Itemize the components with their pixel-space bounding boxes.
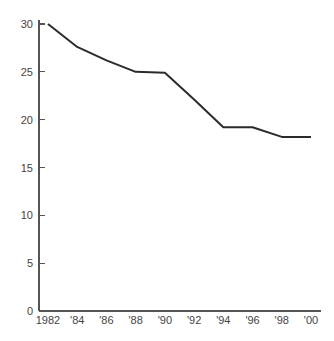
x-axis-tick-label: 1982 xyxy=(36,314,60,326)
y-axis-tick-label: 5 xyxy=(27,257,33,269)
chart-container: 051015202530 1982'84'86'88'90'92'94'96'9… xyxy=(0,0,334,341)
y-axis-tick-label: 15 xyxy=(21,162,33,174)
data-series-group xyxy=(48,24,311,137)
x-axis-tick-label: '84 xyxy=(70,314,84,326)
line-chart: 051015202530 1982'84'86'88'90'92'94'96'9… xyxy=(0,0,334,341)
x-axis-tick-label: '94 xyxy=(216,314,230,326)
x-axis-tick-label: '88 xyxy=(128,314,142,326)
y-axis-tick-label: 10 xyxy=(21,209,33,221)
x-axis-tick-labels: 1982'84'86'88'90'92'94'96'98'00 xyxy=(36,314,318,326)
x-axis-tick-label: '92 xyxy=(187,314,201,326)
y-axis-tick-label: 0 xyxy=(27,305,33,317)
y-axis-ticks xyxy=(39,24,45,263)
x-axis-tick-label: '86 xyxy=(99,314,113,326)
x-axis-tick-label: '90 xyxy=(158,314,172,326)
y-axis-tick-label: 30 xyxy=(21,18,33,30)
x-axis: 1982'84'86'88'90'92'94'96'98'00 xyxy=(36,311,321,326)
y-axis-tick-label: 20 xyxy=(21,114,33,126)
x-axis-tick-label: '98 xyxy=(275,314,289,326)
y-axis-tick-labels: 051015202530 xyxy=(21,18,33,317)
data-line-series-1 xyxy=(48,24,311,137)
x-axis-tick-label: '96 xyxy=(245,314,259,326)
y-axis: 051015202530 xyxy=(21,18,45,317)
y-axis-tick-label: 25 xyxy=(21,66,33,78)
x-axis-tick-label: '00 xyxy=(304,314,318,326)
